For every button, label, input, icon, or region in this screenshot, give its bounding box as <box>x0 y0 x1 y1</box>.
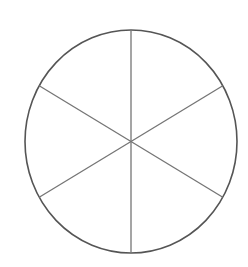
figure-canvas: Circle divided into six equal sectors <box>0 0 248 267</box>
diagram-background <box>0 0 248 267</box>
fraction-circle-diagram: Circle divided into six equal sectors <box>0 0 248 267</box>
